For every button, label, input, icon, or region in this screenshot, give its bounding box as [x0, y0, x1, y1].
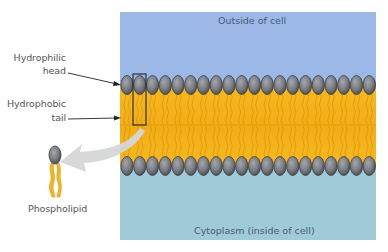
outside-cell-label: Outside of cell [218, 15, 286, 26]
membrane-diagram: Outside of cell Cytoplasm (inside of cel… [0, 0, 388, 252]
membrane-svg [0, 0, 388, 252]
hydrophilic-head-label: head [0, 65, 66, 76]
phospholipid-label: Phospholipid [28, 203, 87, 214]
cytoplasm-label: Cytoplasm (inside of cell) [194, 225, 315, 236]
head-row-bottom [121, 157, 388, 176]
hydrophobic-tail-band [120, 86, 376, 166]
phospholipid-icon [49, 146, 61, 197]
pointer-tail [68, 116, 121, 121]
pointer-head [68, 73, 121, 86]
hydrophobic-label: Hydrophobic [0, 98, 66, 109]
head-row-top [121, 76, 388, 95]
hydrophobic-tail-label: tail [0, 112, 66, 123]
hydrophilic-label: Hydrophilic [0, 52, 66, 63]
